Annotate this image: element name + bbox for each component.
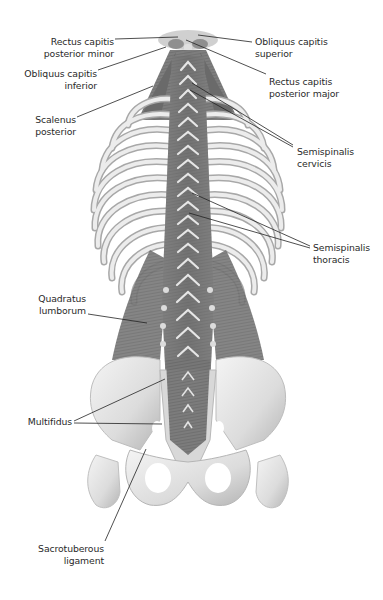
label-sacrotuberous-ligament: Sacrotuberous ligament xyxy=(18,543,104,567)
label-rectus-capitis-posterior-major: Rectus capitis posterior major xyxy=(269,76,379,100)
label-semispinalis-thoracis: Semispinalis thoracis xyxy=(313,242,383,266)
label-semispinalis-cervicis: Semispinalis cervicis xyxy=(297,146,382,170)
label-obliquus-capitis-superior: Obliquus capitis superior xyxy=(255,36,365,60)
label-obliquus-capitis-inferior: Obliquus capitis inferior xyxy=(2,68,97,92)
pelvis xyxy=(88,357,289,508)
label-scalenus-posterior: Scalenus posterior xyxy=(20,114,76,138)
label-rectus-capitis-posterior-minor: Rectus capitis posterior minor xyxy=(8,36,114,60)
label-quadratus-lumborum: Quadratus lumborum xyxy=(20,293,86,317)
label-multifidus: Multifidus xyxy=(10,416,72,428)
